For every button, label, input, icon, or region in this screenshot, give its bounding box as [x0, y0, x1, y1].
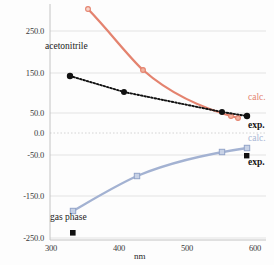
y-tick-label-250: 250.0: [0, 26, 44, 36]
legend-label-gas-phase-exp: exp.: [248, 157, 265, 167]
legend-label-gas-phase-calc: calc.: [248, 133, 266, 143]
y-tick-label-0: 0.0: [0, 128, 44, 138]
legend-label-acetonitrile-calc: calc.: [248, 92, 266, 102]
x-axis-title: nm: [134, 251, 146, 261]
x-tick-label-600: 600: [240, 243, 270, 253]
y-tick-label-neg50: -50.0: [0, 150, 44, 160]
annotation-acetonitrile: acetonitrile: [45, 41, 88, 51]
legend-label-acetonitrile-exp: exp.: [248, 120, 265, 130]
x-tick-label-300: 300: [36, 243, 66, 253]
y-tick-label-50: 50.0: [0, 108, 44, 118]
annotation-gas-phase: gas phase: [50, 212, 87, 222]
x-tick-label-500: 500: [172, 243, 202, 253]
y-tick-label-neg150: -150.0: [0, 191, 44, 201]
x-tick-label-400: 400: [104, 243, 134, 253]
chart-figure: 250.0 150.0 50.0 0.0 -50.0 -150.0 -250.0…: [0, 0, 274, 265]
y-tick-label-neg250: -250.0: [0, 233, 44, 243]
y-tick-label-150: 150.0: [0, 68, 44, 78]
